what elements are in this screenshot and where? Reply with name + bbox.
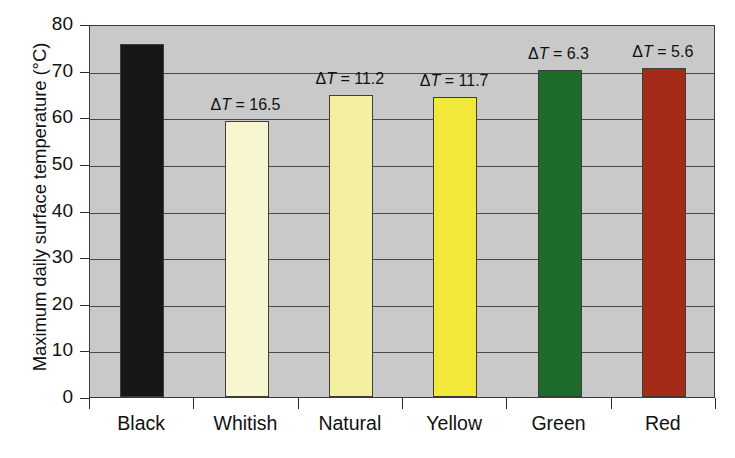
bar-black bbox=[120, 44, 164, 397]
bar-natural bbox=[329, 95, 373, 397]
temperature-variable: T bbox=[221, 96, 231, 113]
x-tick-mark-2 bbox=[298, 398, 299, 409]
y-tick-label-60: 60 bbox=[13, 106, 73, 128]
y-tick-label-30: 30 bbox=[13, 246, 73, 268]
delta-t-annotation-yellow: ΔT = 11.7 bbox=[374, 72, 534, 90]
gridline-30 bbox=[90, 259, 714, 260]
gridline-10 bbox=[90, 352, 714, 353]
temperature-variable: T bbox=[326, 70, 336, 87]
x-tick-mark-3 bbox=[402, 398, 403, 409]
bar-yellow bbox=[433, 97, 477, 397]
y-tick-label-20: 20 bbox=[13, 293, 73, 315]
delta-t-value: 16.5 bbox=[249, 96, 280, 113]
delta-symbol: Δ bbox=[316, 70, 327, 87]
temperature-variable: T bbox=[643, 43, 653, 60]
equals-sign: = bbox=[548, 45, 566, 62]
equals-sign: = bbox=[440, 72, 458, 89]
y-tick-mark-70 bbox=[80, 72, 89, 73]
delta-symbol: Δ bbox=[528, 45, 539, 62]
figure-caption bbox=[10, 445, 730, 458]
temperature-variable: T bbox=[431, 72, 441, 89]
y-tick-mark-30 bbox=[80, 258, 89, 259]
y-tick-mark-80 bbox=[80, 25, 89, 26]
x-axis-label-red: Red bbox=[593, 412, 733, 435]
y-tick-mark-10 bbox=[80, 351, 89, 352]
x-tick-mark-5 bbox=[611, 398, 612, 409]
y-tick-label-70: 70 bbox=[13, 60, 73, 82]
x-tick-mark-1 bbox=[193, 398, 194, 409]
gridline-60 bbox=[90, 119, 714, 120]
delta-t-annotation-whitish: ΔT = 16.5 bbox=[166, 96, 326, 114]
y-tick-mark-0 bbox=[80, 398, 89, 399]
delta-t-value: 11.7 bbox=[459, 72, 489, 89]
y-tick-mark-40 bbox=[80, 212, 89, 213]
x-tick-mark-6 bbox=[715, 398, 716, 409]
bar-whitish bbox=[225, 121, 269, 397]
delta-symbol: Δ bbox=[632, 43, 643, 60]
gridline-20 bbox=[90, 306, 714, 307]
y-tick-mark-50 bbox=[80, 165, 89, 166]
y-tick-mark-60 bbox=[80, 118, 89, 119]
y-tick-mark-20 bbox=[80, 305, 89, 306]
y-tick-label-40: 40 bbox=[13, 200, 73, 222]
y-tick-label-50: 50 bbox=[13, 153, 73, 175]
x-tick-mark-4 bbox=[506, 398, 507, 409]
bar-red bbox=[642, 68, 686, 397]
bar-green bbox=[538, 70, 582, 397]
gridline-40 bbox=[90, 213, 714, 214]
delta-symbol: Δ bbox=[420, 72, 431, 89]
delta-t-annotation-red: ΔT = 5.6 bbox=[583, 43, 735, 61]
equals-sign: = bbox=[653, 43, 671, 60]
y-tick-label-0: 0 bbox=[13, 386, 73, 408]
delta-symbol: Δ bbox=[211, 96, 222, 113]
x-tick-mark-0 bbox=[89, 398, 90, 409]
equals-sign: = bbox=[336, 70, 354, 87]
gridline-50 bbox=[90, 166, 714, 167]
figure-container: Maximum daily surface temperature (°C) 0… bbox=[0, 0, 735, 458]
equals-sign: = bbox=[231, 96, 249, 113]
y-tick-label-80: 80 bbox=[13, 13, 73, 35]
delta-t-value: 5.6 bbox=[671, 43, 693, 60]
y-tick-label-10: 10 bbox=[13, 339, 73, 361]
